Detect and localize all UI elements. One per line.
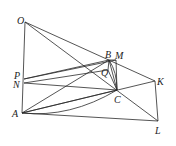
- point-label-q: Q: [101, 67, 109, 78]
- segment-OK: [25, 22, 155, 81]
- point-label-n: N: [12, 79, 21, 90]
- point-label-k: K: [156, 76, 165, 87]
- point-label-c: C: [114, 94, 121, 105]
- segment-AL: [22, 113, 158, 121]
- segment-KA: [22, 81, 155, 113]
- diagram-labels: OBMQPNCKAL: [11, 15, 165, 136]
- segment-KL: [155, 81, 158, 121]
- diagram-segments: [22, 22, 158, 121]
- segment-OL: [25, 22, 158, 121]
- point-label-o: O: [17, 15, 24, 26]
- point-label-a: A: [11, 108, 19, 119]
- point-label-m: M: [114, 50, 124, 61]
- segment-NC: [24, 83, 117, 90]
- point-label-l: L: [154, 125, 161, 136]
- point-label-b: B: [105, 49, 111, 60]
- segment-OA: [22, 22, 25, 113]
- geometry-diagram: OBMQPNCKAL: [0, 0, 176, 146]
